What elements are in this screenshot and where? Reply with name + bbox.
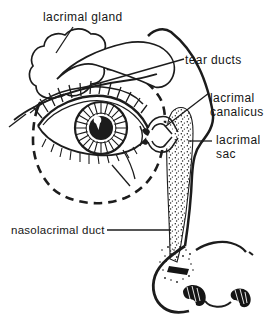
label-nasolacrimal-duct: nasolacrimal duct — [11, 224, 105, 236]
label-lacrimal-sac-line1: lacrimal — [216, 133, 261, 147]
eye — [33, 81, 150, 186]
label-tear-ducts: tear ducts — [185, 53, 242, 67]
nostril-connector-line — [205, 301, 231, 307]
label-lacrimal-canalicus-line1: lacrimal — [210, 91, 255, 105]
lacrimal-apparatus-diagram: lacrimal gland tear ducts lacrimal canal… — [0, 0, 266, 328]
label-lacrimal-gland: lacrimal gland — [43, 10, 123, 24]
duct-opening-dash — [167, 266, 189, 275]
nose-wing-outline — [196, 242, 246, 252]
nose-wing-dash — [249, 252, 253, 255]
label-lacrimal-canalicus-line2: canalicus — [210, 105, 264, 119]
lacrimal-apparatus-figure: lacrimal gland tear ducts lacrimal canal… — [0, 0, 266, 328]
label-lacrimal-sac-line2: sac — [216, 147, 236, 161]
nostrils-icon — [183, 285, 251, 307]
